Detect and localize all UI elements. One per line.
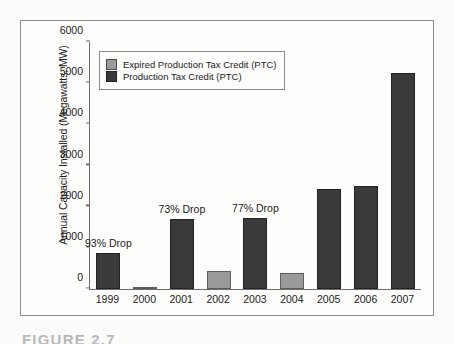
- bar-annotation: 93% Drop: [85, 237, 132, 249]
- bar-annotation: 73% Drop: [159, 203, 206, 215]
- x-tick-label: 2002: [200, 293, 237, 305]
- bar[interactable]: [96, 253, 120, 289]
- figure-page: Annual Capacity Installed (Megawatts, MW…: [0, 0, 454, 344]
- bar[interactable]: [243, 218, 267, 289]
- bar[interactable]: [391, 73, 415, 289]
- bar-annotation: 77% Drop: [232, 202, 279, 214]
- bar-chart: Annual Capacity Installed (Megawatts, MW…: [21, 21, 435, 317]
- bar-slot: [311, 42, 348, 289]
- y-tick-label: 4000: [60, 106, 90, 118]
- chart-legend: Expired Production Tax Credit (PTC) Prod…: [99, 51, 285, 90]
- bar-slot: [384, 42, 421, 289]
- y-tick-label: 3000: [60, 148, 90, 160]
- bar[interactable]: [170, 219, 194, 289]
- figure-caption: FIGURE 2.7: [22, 331, 116, 344]
- bar[interactable]: [207, 271, 231, 289]
- x-tick-label: 2003: [237, 293, 274, 305]
- legend-label-expired: Expired Production Tax Credit (PTC): [123, 59, 276, 70]
- bar-slot: [347, 42, 384, 289]
- x-tick-label: 1999: [89, 293, 126, 305]
- figure-frame: Annual Capacity Installed (Megawatts, MW…: [20, 20, 434, 316]
- x-axis-labels: 199920002001200220032004200520062007: [89, 293, 421, 305]
- y-tick-label: 5000: [60, 65, 90, 77]
- y-tick-label: 6000: [60, 24, 90, 36]
- legend-swatch-icon-expired: [106, 59, 117, 70]
- y-tick-label: 0: [77, 271, 90, 283]
- bar[interactable]: [354, 186, 378, 289]
- legend-label-ptc: Production Tax Credit (PTC): [123, 71, 242, 82]
- bar[interactable]: [317, 189, 341, 289]
- x-tick-label: 2007: [384, 293, 421, 305]
- y-tick-label: 2000: [60, 189, 90, 201]
- legend-item-expired: Expired Production Tax Credit (PTC): [106, 59, 276, 70]
- bar[interactable]: [280, 273, 304, 289]
- x-tick-label: 2000: [126, 293, 163, 305]
- legend-item-ptc: Production Tax Credit (PTC): [106, 71, 276, 82]
- x-tick-label: 2005: [310, 293, 347, 305]
- legend-swatch-icon-ptc: [106, 71, 117, 82]
- bar[interactable]: [133, 287, 157, 289]
- x-tick-label: 2006: [347, 293, 384, 305]
- x-tick-label: 2001: [163, 293, 200, 305]
- x-tick-label: 2004: [273, 293, 310, 305]
